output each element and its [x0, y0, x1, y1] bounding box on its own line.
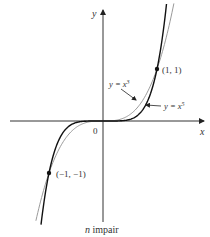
point-1-1-marker [155, 67, 159, 71]
y-axis-label: y [91, 8, 97, 19]
caption: n impair [85, 224, 119, 235]
cubic-label: y = x3 [108, 79, 130, 89]
quintic-label-arrow [146, 105, 161, 106]
cubic-label-arrow [121, 89, 136, 100]
origin-label: 0 [93, 126, 98, 136]
x-axis-label: x [199, 126, 205, 137]
point-1-1-label: (1, 1) [162, 65, 182, 75]
curve-y-x3 [36, 3, 174, 220]
quintic-label: y = x5 [163, 101, 185, 111]
curve-y-x5 [41, 4, 166, 225]
odd-power-functions-diagram: y x 0 (1, 1) (−1, −1) y = x3 y = x5 n im… [0, 0, 210, 237]
point-neg1-neg1-marker [47, 171, 51, 175]
point-neg1-neg1-label: (−1, −1) [56, 169, 86, 179]
